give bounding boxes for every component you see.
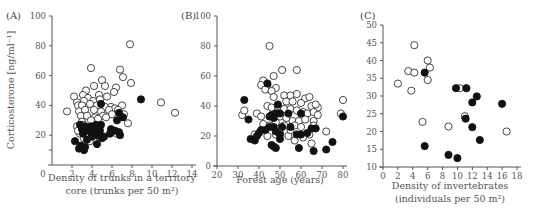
y-tick-label: 100 [30, 11, 46, 21]
data-point-filled [276, 135, 283, 142]
data-point-open [503, 128, 510, 135]
series-open [239, 42, 347, 147]
x-axis-title: Forest age (years) [236, 174, 324, 185]
data-point-open [90, 82, 97, 89]
data-point-open [258, 113, 265, 120]
data-point-open [279, 66, 286, 73]
panel-c: (C)101520253035404550024681012141618Dens… [360, 10, 522, 204]
data-point-open [293, 66, 300, 73]
data-point-filled [310, 147, 317, 154]
y-tick-label: 10 [366, 162, 377, 172]
data-point-open [119, 74, 126, 81]
y-tick-label: 15 [366, 144, 377, 154]
data-point-open [241, 107, 248, 114]
data-point-open [101, 82, 108, 89]
x-axis-title: Density of invertebrates [392, 180, 509, 191]
data-point-filled [276, 110, 283, 117]
data-point-filled [274, 101, 281, 108]
data-point-filled [113, 117, 120, 124]
data-point-filled [462, 115, 469, 122]
data-point-open [424, 57, 431, 64]
y-tick-label: 35 [366, 73, 377, 83]
data-point-filled [421, 143, 428, 150]
x-tick-label: 18 [512, 171, 523, 181]
data-point-open [308, 140, 315, 147]
x-axis-title: (individuals per 50 m²) [395, 193, 505, 204]
data-point-open [126, 41, 133, 48]
data-point-open [297, 99, 304, 106]
data-point-filled [268, 141, 275, 148]
data-point-open [266, 42, 273, 49]
data-point-filled [312, 125, 319, 132]
data-point-open [314, 111, 321, 118]
data-point-open [102, 114, 109, 121]
y-tick-label: 0 [206, 161, 211, 171]
data-point-filled [241, 96, 248, 103]
y-tick-label: 80 [35, 41, 46, 51]
y-tick-label: 60 [35, 71, 46, 81]
data-point-open [157, 99, 164, 106]
data-point-open [339, 96, 346, 103]
x-tick-label: 80 [338, 170, 349, 180]
data-point-filled [463, 85, 470, 92]
data-point-open [103, 93, 110, 100]
data-point-open [408, 87, 415, 94]
data-point-open [424, 76, 431, 83]
data-point-filled [279, 123, 286, 130]
data-point-open [87, 65, 94, 72]
y-tick-label: 80 [200, 41, 211, 51]
data-point-open [289, 98, 296, 105]
data-point-filled [116, 132, 123, 139]
x-axis-title: core (trunks per 50 m²) [65, 185, 178, 196]
y-tick-label: 40 [200, 101, 211, 111]
panel-b: (B)02040608010020304050607080Forest age … [181, 10, 348, 185]
y-tick-label: 100 [195, 11, 211, 21]
x-tick-label: 0 [40, 169, 45, 179]
data-point-filled [295, 144, 302, 151]
y-tick-label: 40 [35, 100, 46, 110]
data-point-open [270, 93, 277, 100]
data-point-filled [499, 100, 506, 107]
data-point-open [445, 123, 452, 130]
data-point-filled [469, 124, 476, 131]
data-point-filled [421, 69, 428, 76]
data-point-open [411, 69, 418, 76]
data-point-filled [97, 100, 104, 107]
x-tick-label: 0 [380, 171, 385, 181]
data-point-filled [285, 110, 292, 117]
data-point-filled [245, 116, 252, 123]
data-point-open [293, 90, 300, 97]
data-point-open [270, 72, 277, 79]
data-point-open [110, 88, 117, 95]
data-point-filled [323, 146, 330, 153]
x-axis-title: Density of trunks in a territory [48, 172, 196, 183]
data-point-filled [93, 141, 100, 148]
x-tick-label: 20 [212, 170, 223, 180]
data-point-filled [445, 151, 452, 158]
data-point-filled [454, 155, 461, 162]
figure: (A)2040608010002468101214Density of trun… [0, 0, 536, 213]
data-point-open [171, 109, 178, 116]
data-point-filled [297, 110, 304, 117]
data-point-open [312, 101, 319, 108]
data-point-open [323, 128, 330, 135]
data-point-filled [452, 85, 459, 92]
y-tick-label: 20 [366, 127, 377, 137]
data-point-open [124, 120, 131, 127]
data-point-filled [137, 96, 144, 103]
data-point-filled [469, 99, 476, 106]
data-point-open [127, 79, 134, 86]
y-tick-label: 20 [35, 130, 46, 140]
data-point-filled [83, 136, 90, 143]
y-tick-label: 60 [200, 71, 211, 81]
data-point-open [116, 66, 123, 73]
y-tick-label: 30 [366, 91, 377, 101]
data-point-open [394, 80, 401, 87]
data-point-filled [251, 137, 258, 144]
data-point-open [297, 123, 304, 130]
data-point-filled [80, 147, 87, 154]
data-point-open [411, 42, 418, 49]
data-point-filled [264, 80, 271, 87]
series-filled [421, 69, 506, 162]
y-tick-label: 50 [366, 20, 377, 30]
